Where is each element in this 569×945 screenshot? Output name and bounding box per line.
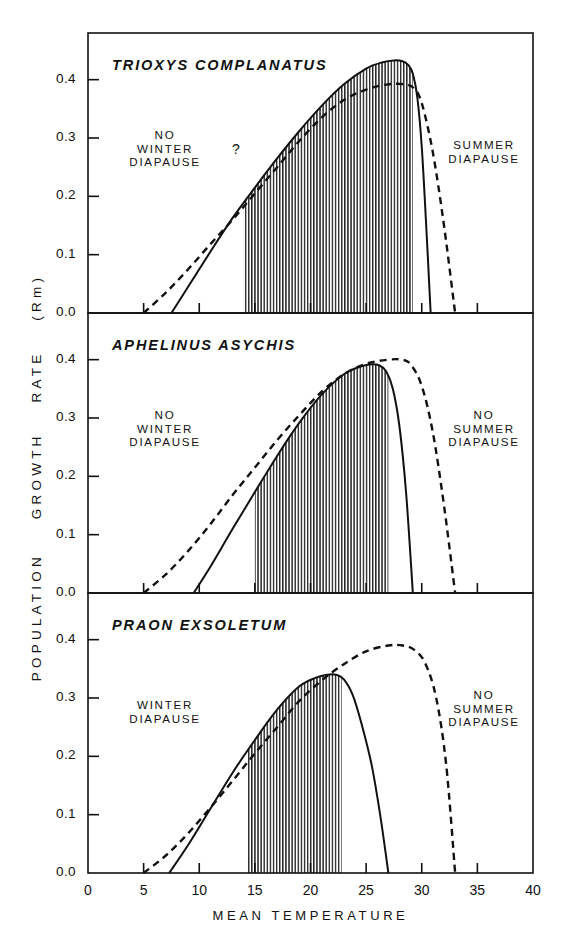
annotation-line: DIAPAUSE [110, 155, 220, 169]
species-label: TRIOXYS COMPLANATUS [112, 57, 327, 73]
x-tick-label: 5 [129, 882, 159, 898]
species-label: PRAON EXSOLETUM [112, 617, 287, 633]
x-tick-label: 30 [407, 882, 437, 898]
left-annotation: WINTERDIAPAUSE [110, 698, 220, 725]
y-tick-label: 0.0 [34, 584, 76, 599]
x-tick-label: 40 [518, 882, 548, 898]
right-annotation: SUMMERDIAPAUSE [432, 138, 536, 165]
annotation-line: WINTER [110, 698, 220, 712]
y-tick-label: 0.1 [34, 526, 76, 541]
x-tick-label: 10 [184, 882, 214, 898]
question-mark-annotation: ? [232, 141, 240, 157]
right-annotation: NOSUMMERDIAPAUSE [432, 688, 536, 729]
annotation-line: DIAPAUSE [110, 712, 220, 726]
annotation-line: WINTER [110, 142, 220, 156]
panel-3 [88, 593, 533, 873]
left-annotation: NOWINTERDIAPAUSE [110, 408, 220, 449]
y-tick-label: 0.2 [34, 467, 76, 482]
annotation-line: NO [110, 408, 220, 422]
annotation-line: DIAPAUSE [432, 435, 536, 449]
annotation-line: SUMMER [432, 702, 536, 716]
annotation-line: NO [432, 688, 536, 702]
y-tick-label: 0.1 [34, 806, 76, 821]
y-tick-label: 0.1 [34, 246, 76, 261]
shaded-region [255, 365, 389, 594]
y-tick-label: 0.0 [34, 864, 76, 879]
x-tick-label: 25 [351, 882, 381, 898]
x-tick-label: 35 [462, 882, 492, 898]
annotation-line: DIAPAUSE [432, 152, 536, 166]
x-tick-label: 20 [296, 882, 326, 898]
x-tick-label: 15 [240, 882, 270, 898]
annotation-line: DIAPAUSE [110, 435, 220, 449]
annotation-line: SUMMER [432, 138, 536, 152]
annotation-line: DIAPAUSE [432, 715, 536, 729]
y-tick-label: 0.4 [34, 351, 76, 366]
right-annotation: NOSUMMERDIAPAUSE [432, 408, 536, 449]
y-tick-label: 0.3 [34, 129, 76, 144]
y-tick-label: 0.3 [34, 409, 76, 424]
figure-container: POPULATIONGROWTHRATE(Rm) MEAN TEMPERATUR… [0, 0, 569, 945]
species-label: APHELINUS ASYCHIS [112, 337, 296, 353]
y-tick-label: 0.4 [34, 71, 76, 86]
panel-2 [88, 313, 533, 593]
annotation-line: NO [432, 408, 536, 422]
y-tick-label: 0.2 [34, 187, 76, 202]
x-tick-label: 0 [73, 882, 103, 898]
y-tick-label: 0.3 [34, 689, 76, 704]
annotation-line: NO [110, 128, 220, 142]
y-tick-label: 0.4 [34, 631, 76, 646]
annotation-line: SUMMER [432, 422, 536, 436]
left-annotation: NOWINTERDIAPAUSE [110, 128, 220, 169]
annotation-line: WINTER [110, 422, 220, 436]
y-tick-label: 0.0 [34, 304, 76, 319]
panel-1 [88, 33, 533, 313]
y-tick-label: 0.2 [34, 747, 76, 762]
shaded-region [247, 675, 342, 873]
